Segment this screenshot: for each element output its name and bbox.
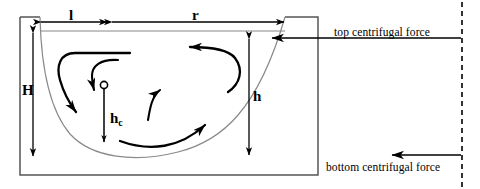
dimension-hc: [100, 81, 107, 142]
dimension-label-h: h: [253, 88, 261, 105]
vessel-outline: [20, 17, 318, 175]
free-surface-curve: [40, 17, 285, 158]
dimension-label-H: H: [22, 82, 34, 99]
dimension-label-r: r: [192, 7, 199, 24]
bottom-centrifugal-force-label: bottom centrifugal force: [326, 161, 440, 173]
dimension-label-l: l: [69, 7, 73, 24]
dimension-label-hc: hc: [110, 110, 123, 127]
flow-arrows: [59, 47, 240, 147]
vortex-center-icon: [100, 81, 107, 88]
diagram-canvas: l r H h hc top centrifugal force bottom …: [0, 0, 480, 189]
hc-subscript: c: [118, 117, 122, 128]
top-centrifugal-force-label: top centrifugal force: [334, 26, 430, 38]
